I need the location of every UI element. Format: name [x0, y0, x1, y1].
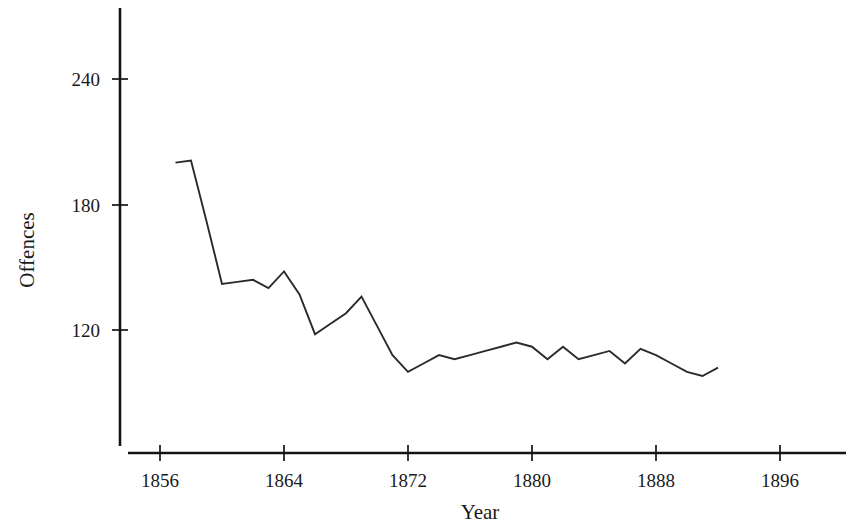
- x-tick-label-1896: 1896: [761, 470, 799, 491]
- x-tick-label-1864: 1864: [265, 470, 304, 491]
- y-axis-title: Offences: [15, 212, 39, 287]
- x-tick-label-1856: 1856: [141, 470, 179, 491]
- x-axis-title: Year: [461, 500, 500, 524]
- offences-data-line: [176, 161, 719, 376]
- y-tick-label-240: 240: [72, 69, 101, 90]
- x-tick-label-1888: 1888: [637, 470, 675, 491]
- x-tick-label-1872: 1872: [389, 470, 427, 491]
- y-tick-label-120: 120: [72, 320, 101, 341]
- x-tick-label-1880: 1880: [513, 470, 551, 491]
- y-tick-label-180: 180: [72, 195, 101, 216]
- x-axis-tick-labels: 1856 1864 1872 1880 1888 1896: [141, 470, 799, 491]
- line-chart-canvas: 240 180 120 1856 1864 1872 1880 1888 189…: [0, 0, 846, 527]
- chart-figure: 240 180 120 1856 1864 1872 1880 1888 189…: [0, 0, 846, 527]
- y-axis-tick-labels: 240 180 120: [72, 69, 101, 341]
